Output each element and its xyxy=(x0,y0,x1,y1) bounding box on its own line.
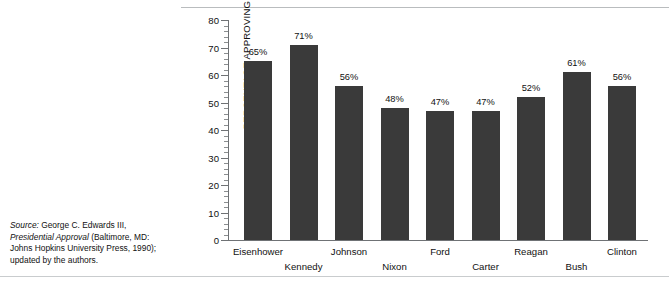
y-tick-label: 0 xyxy=(214,235,219,246)
x-axis-label: Ford xyxy=(430,246,450,257)
bar xyxy=(563,72,591,240)
y-tick-major xyxy=(221,130,228,131)
y-tick-major xyxy=(221,20,228,21)
source-prefix: Source: xyxy=(10,220,39,230)
x-axis-label: Nixon xyxy=(382,261,407,272)
y-tick-major xyxy=(221,48,228,49)
bar-value-label: 48% xyxy=(385,94,404,104)
bar-value-label: 71% xyxy=(294,31,313,41)
bar xyxy=(244,61,272,240)
approval-bar-chart: PERCENTAGE APPROVING 01020304050607080 6… xyxy=(192,8,662,273)
x-axis-line xyxy=(228,240,648,241)
x-axis-label: Kennedy xyxy=(285,261,323,272)
bar-value-label: 56% xyxy=(340,72,359,82)
y-tick-label: 60 xyxy=(208,70,219,81)
bar-value-label: 61% xyxy=(567,58,586,68)
bottom-divider-rule xyxy=(0,276,669,277)
source-citation: Source: George C. Edwards III, President… xyxy=(10,220,178,266)
bar xyxy=(335,86,363,240)
bar xyxy=(608,86,636,240)
bar xyxy=(426,111,454,240)
bar xyxy=(472,111,500,240)
bar-value-label: 56% xyxy=(613,72,632,82)
bar-value-label: 47% xyxy=(431,97,450,107)
y-tick-label: 80 xyxy=(208,15,219,26)
bar-value-label: 52% xyxy=(522,83,541,93)
y-tick-label: 40 xyxy=(208,125,219,136)
x-axis-label: Reagan xyxy=(514,246,548,257)
y-tick-label: 50 xyxy=(208,97,219,108)
bars-layer: 65%71%56%48%47%47%52%61%56% xyxy=(228,20,648,240)
source-update-note: updated by the authors. xyxy=(10,255,98,265)
bar-value-label: 65% xyxy=(249,47,268,57)
bar xyxy=(517,97,545,240)
y-tick-label: 20 xyxy=(208,180,219,191)
y-tick-label: 10 xyxy=(208,207,219,218)
bar xyxy=(290,45,318,240)
source-publisher: Johns Hopkins University Press, 1990); xyxy=(10,243,156,253)
y-tick-label: 70 xyxy=(208,42,219,53)
source-author: George C. Edwards III, xyxy=(39,220,127,230)
y-tick-major xyxy=(221,185,228,186)
source-publisher-city: (Baltimore, MD: xyxy=(89,232,150,242)
y-tick-major xyxy=(221,240,228,241)
x-axis-label: Bush xyxy=(566,261,588,272)
y-tick-major xyxy=(221,158,228,159)
x-axis-label: Clinton xyxy=(607,246,637,257)
bar xyxy=(381,108,409,240)
plot-area: 01020304050607080 65%71%56%48%47%47%52%6… xyxy=(228,8,662,248)
y-tick-major xyxy=(221,213,228,214)
x-axis-label: Johnson xyxy=(331,246,367,257)
y-tick-major xyxy=(221,103,228,104)
x-axis-label: Carter xyxy=(472,261,499,272)
y-tick-major xyxy=(221,75,228,76)
x-axis-label: Eisenhower xyxy=(233,246,283,257)
y-tick-label: 30 xyxy=(208,152,219,163)
source-book-title: Presidential Approval xyxy=(10,232,89,242)
bar-value-label: 47% xyxy=(476,97,495,107)
